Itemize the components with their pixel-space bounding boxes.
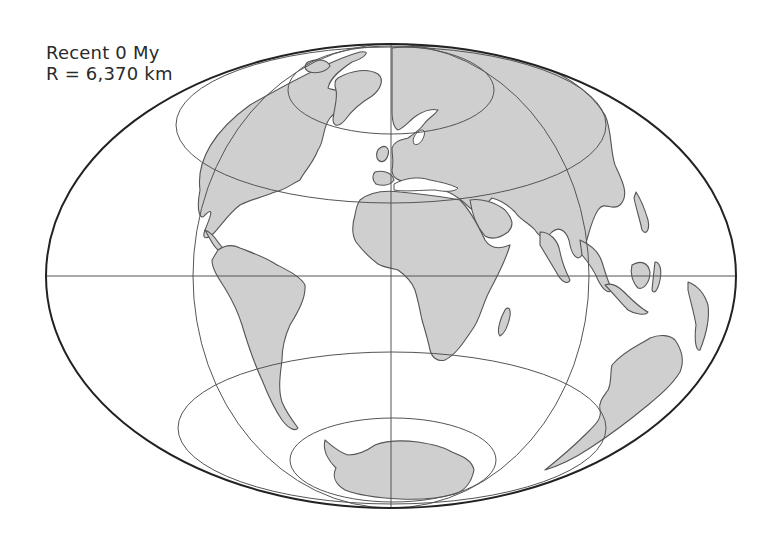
madagascar <box>499 308 511 336</box>
antarctica <box>324 440 474 499</box>
australia <box>545 336 682 470</box>
british-isles <box>377 146 389 161</box>
graticule <box>46 44 736 508</box>
new-guinea <box>688 282 709 350</box>
south-america <box>212 246 305 430</box>
india <box>540 232 570 282</box>
borneo <box>631 262 650 288</box>
sulawesi <box>652 262 661 292</box>
landmasses <box>198 46 708 499</box>
world-map <box>0 0 771 549</box>
greenland <box>333 71 381 126</box>
japan <box>634 192 649 232</box>
